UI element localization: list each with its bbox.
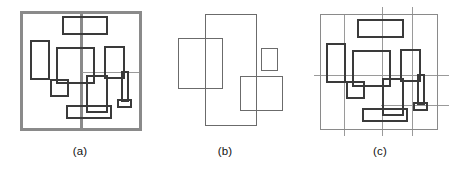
panel-a-rect-top-center <box>63 17 107 34</box>
panel-a-rect-center-lower <box>87 76 107 112</box>
panel-c-frame <box>321 15 438 130</box>
panel-b <box>179 15 283 126</box>
panel-a <box>22 13 141 130</box>
panel-c-rect-right-upper <box>401 50 420 81</box>
panel-a-rect-small-left <box>51 80 68 96</box>
panel-c-rect-small-left <box>347 82 364 98</box>
panel-c-rect-top-center <box>358 20 403 37</box>
panel-caption-a: (a) <box>60 145 100 157</box>
panel-a-rect-right-upper <box>105 47 124 78</box>
figure-canvas: (a) (b) (c) <box>0 0 462 172</box>
panel-c-rect-post-base <box>414 103 427 110</box>
panel-a-rect-post-base <box>118 100 131 107</box>
panel-caption-c: (c) <box>360 145 400 157</box>
panel-c <box>314 7 449 136</box>
panel-a-rect-center-large <box>57 48 94 83</box>
panel-b-rect-tall-center <box>206 15 257 126</box>
panel-c-rect-center-large <box>353 51 390 86</box>
panel-b-rect-bottom-right <box>241 77 283 111</box>
panel-a-rect-thin-vertical-post <box>122 72 128 101</box>
panel-a-frame <box>22 13 141 130</box>
panel-c-rect-wide-bottom <box>363 109 407 121</box>
panel-b-rect-left-block <box>179 39 223 89</box>
panel-c-rect-center-lower <box>383 79 403 115</box>
panel-c-rect-thin-vertical-post <box>418 75 424 104</box>
panel-caption-b: (b) <box>205 145 245 157</box>
panel-c-rect-left-tall <box>327 44 345 82</box>
panel-b-rect-right-small <box>262 49 278 71</box>
panel-a-rect-left-tall <box>31 41 49 79</box>
panel-a-rect-wide-bottom <box>67 106 111 118</box>
